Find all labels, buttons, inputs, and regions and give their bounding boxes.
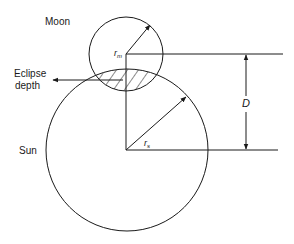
sun-radius-label: rs xyxy=(144,138,150,149)
moon-radius-label: rm xyxy=(114,48,122,59)
moon-radius-arrow xyxy=(126,25,150,54)
sun-radius-arrow xyxy=(126,97,186,150)
eclipse-depth-label-line2: depth xyxy=(15,80,40,91)
sun-label: Sun xyxy=(19,145,37,156)
moon-label: Moon xyxy=(45,16,70,27)
distance-label: D xyxy=(242,97,250,109)
eclipse-diagram: Moon Sun Eclipse depth rm rs D xyxy=(0,0,294,244)
eclipse-depth-label-line1: Eclipse xyxy=(14,68,47,79)
